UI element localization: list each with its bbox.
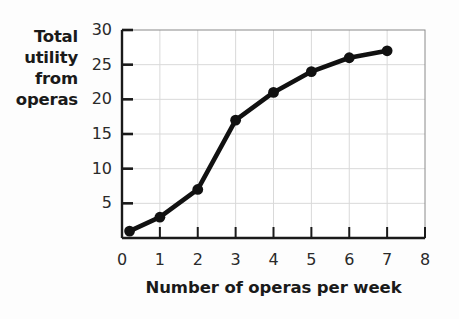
x-tick-label: 2 — [185, 252, 211, 268]
data-point-marker — [230, 115, 241, 126]
x-tick-label: 8 — [412, 252, 438, 268]
data-point-marker — [382, 45, 393, 56]
y-tick-label: 30 — [80, 22, 112, 38]
y-tick-label: 15 — [80, 126, 112, 142]
x-tick-label: 5 — [298, 252, 324, 268]
y-tick-label: 5 — [80, 195, 112, 211]
x-tick-label: 3 — [223, 252, 249, 268]
y-tick-label: 20 — [80, 91, 112, 107]
data-point-marker — [124, 226, 135, 237]
data-point-marker — [154, 212, 165, 223]
data-point-marker — [344, 52, 355, 63]
chart-figure: Total utility from operas Number of oper… — [0, 0, 459, 319]
origin-tick-label: 0 — [109, 252, 135, 268]
plot-area — [0, 0, 459, 319]
data-point-marker — [306, 66, 317, 77]
y-tick-label: 25 — [80, 57, 112, 73]
x-tick-label: 4 — [261, 252, 287, 268]
data-point-marker — [268, 87, 279, 98]
data-point-marker — [192, 184, 203, 195]
y-tick-label: 10 — [80, 161, 112, 177]
x-tick-label: 7 — [374, 252, 400, 268]
x-tick-label: 6 — [336, 252, 362, 268]
x-tick-label: 1 — [147, 252, 173, 268]
